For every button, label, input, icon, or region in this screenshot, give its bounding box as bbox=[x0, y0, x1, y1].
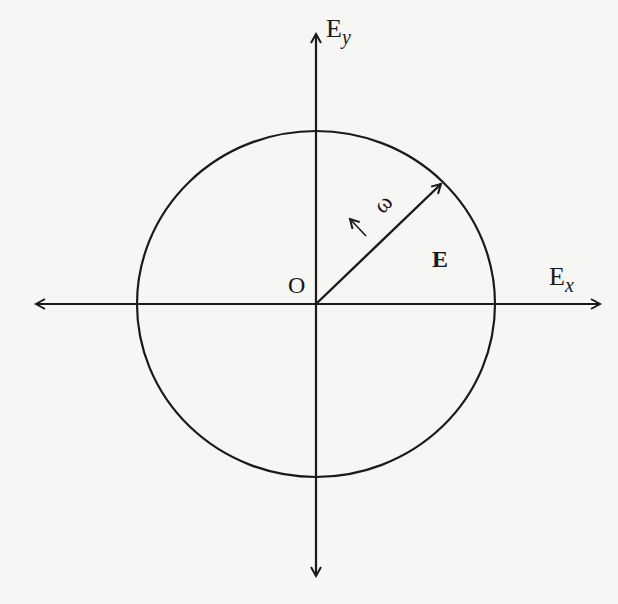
origin-label: O bbox=[288, 272, 305, 299]
x-axis-label-main: E bbox=[549, 262, 565, 291]
vector-label: E bbox=[432, 246, 448, 273]
x-axis-label-sub: x bbox=[565, 274, 574, 296]
x-axis-label: Ex bbox=[549, 262, 574, 292]
polarization-diagram bbox=[0, 0, 618, 604]
rotation-arrow-icon bbox=[350, 219, 366, 236]
y-axis-label-sub: y bbox=[342, 26, 351, 48]
y-axis-label-main: E bbox=[326, 14, 342, 43]
y-axis-label: Ey bbox=[326, 14, 351, 44]
